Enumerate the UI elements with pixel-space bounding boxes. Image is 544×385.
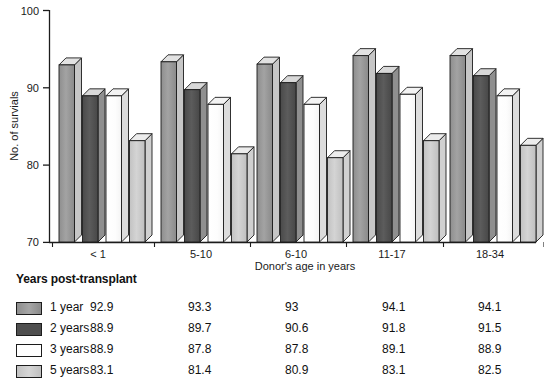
- y-axis-title: No. of survials: [8, 91, 20, 161]
- legend-label-2-years: 2 years: [50, 321, 89, 335]
- y-tick-label-80: 80: [27, 159, 39, 171]
- bar-3-group-2: [208, 97, 231, 242]
- bar-1-group-1: [59, 58, 82, 242]
- bars-layer: [59, 49, 543, 242]
- bar-4-group-3: [328, 151, 351, 242]
- legend-value: 91.8: [382, 321, 405, 335]
- y-tick-label-90: 90: [27, 82, 39, 94]
- legend-value: 89.7: [188, 321, 211, 335]
- bar-1-group-4: [353, 49, 376, 242]
- legend-value: 91.5: [478, 321, 501, 335]
- legend-value: 80.9: [285, 363, 308, 377]
- legend-label-5-years: 5 years: [50, 363, 89, 377]
- x-group-label-1: 5-10: [190, 248, 212, 260]
- legend-value: 92.9: [90, 300, 113, 314]
- y-tick-label-100: 100: [21, 5, 39, 17]
- bar-3-group-5: [497, 89, 520, 242]
- legend-value: 94.1: [382, 300, 405, 314]
- legend-value: 87.8: [285, 342, 308, 356]
- legend-row: 3 years 88.9 87.8 87.8 89.1 88.9: [0, 341, 544, 362]
- bar-1-group-3: [257, 57, 280, 242]
- y-axis-ticks: [43, 11, 49, 243]
- legend-value: 87.8: [188, 342, 211, 356]
- legend-swatch-3-years: [16, 344, 42, 357]
- legend-swatch-2-years: [16, 323, 42, 336]
- legend-swatch-5-years: [16, 365, 42, 378]
- legend-value: 90.6: [285, 321, 308, 335]
- bar-2-group-5: [474, 69, 497, 242]
- legend-label-3-years: 3 years: [50, 342, 89, 356]
- bar-1-group-5: [450, 49, 473, 242]
- legend-value: 83.1: [90, 363, 113, 377]
- bar-2-group-1: [83, 89, 106, 242]
- x-group-label-2: 6-10: [285, 248, 307, 260]
- bar-3-group-3: [304, 97, 327, 242]
- bar-2-group-2: [185, 83, 208, 242]
- bar-1-group-2: [161, 55, 184, 242]
- bar-3-group-1: [106, 89, 129, 242]
- bar-4-group-4: [424, 134, 447, 242]
- bar-chart-figure: 100 90 80 70 No. of survials < 1 5-10 6-…: [0, 0, 544, 385]
- legend-value: 93.3: [188, 300, 211, 314]
- bar-2-group-4: [377, 66, 400, 242]
- bar-4-group-1: [130, 134, 153, 242]
- bar-4-group-2: [232, 147, 255, 242]
- legend-heading: Years post-transplant: [16, 272, 137, 286]
- legend-value: 83.1: [382, 363, 405, 377]
- legend-value: 89.1: [382, 342, 405, 356]
- legend-value: 81.4: [188, 363, 211, 377]
- legend-swatch-1-year: [16, 302, 42, 315]
- chart-plot-area: 100 90 80 70 No. of survials < 1 5-10 6-…: [0, 0, 544, 275]
- x-group-label-4: 18-34: [476, 248, 504, 260]
- legend-value: 82.5: [478, 363, 501, 377]
- legend-value: 88.9: [478, 342, 501, 356]
- y-tick-label-70: 70: [27, 236, 39, 248]
- legend-row: 2 years 88.9 89.7 90.6 91.8 91.5: [0, 320, 544, 341]
- legend-row: 5 years 83.1 81.4 80.9 83.1 82.5: [0, 362, 544, 383]
- legend-value: 88.9: [90, 321, 113, 335]
- bar-2-group-3: [281, 76, 304, 242]
- bar-3-group-4: [400, 87, 423, 242]
- x-group-label-3: 11-17: [378, 248, 405, 260]
- x-axis-title: Donor's age in years: [255, 260, 356, 272]
- legend-label-1-year: 1 year: [50, 300, 83, 314]
- legend-value: 93: [285, 300, 298, 314]
- bar-4-group-5: [521, 138, 544, 242]
- x-group-label-0: < 1: [90, 248, 106, 260]
- legend-value: 94.1: [478, 300, 501, 314]
- legend-value: 88.9: [90, 342, 113, 356]
- legend-row: 1 year 92.9 93.3 93 94.1 94.1: [0, 299, 544, 320]
